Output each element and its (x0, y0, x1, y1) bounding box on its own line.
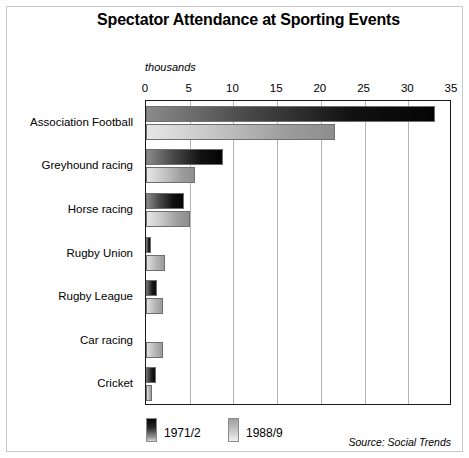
x-tick-label: 0 (142, 82, 148, 94)
bar-1971-2 (146, 149, 223, 165)
x-tick-label: 25 (357, 82, 370, 94)
bar-1988-9 (146, 124, 335, 140)
legend-label: 1988/9 (246, 427, 283, 439)
y-axis-category-label: Car racing (80, 334, 140, 346)
bar-1971-2 (146, 193, 184, 209)
y-axis-category-labels: Association FootballGreyhound racingHors… (0, 100, 140, 405)
bar-1971-2 (146, 367, 156, 383)
y-axis-category-label: Association Football (30, 116, 140, 128)
bar-1988-9 (146, 385, 152, 401)
x-tick-label: 10 (226, 82, 239, 94)
bar-1988-9 (146, 298, 163, 314)
x-gridline (190, 101, 191, 404)
bar-1988-9 (146, 342, 163, 358)
bar-1971-2 (146, 280, 157, 296)
legend-swatch-icon (146, 418, 157, 442)
chart-legend: Source: Social Trends 1971/21988/9 (0, 418, 469, 452)
x-gridline (277, 101, 278, 404)
x-gridline (365, 101, 366, 404)
bar-1971-2 (146, 106, 435, 122)
x-tick-label: 15 (270, 82, 283, 94)
x-gridline (408, 101, 409, 404)
y-axis-category-label: Horse racing (68, 203, 140, 215)
x-tick-label: 30 (401, 82, 414, 94)
x-gridline (233, 101, 234, 404)
y-axis-category-label: Cricket (97, 377, 140, 389)
y-axis-category-label: Rugby League (58, 290, 140, 302)
x-gridline (321, 101, 322, 404)
x-tick-label: 35 (445, 82, 458, 94)
x-axis-unit-label: thousands (145, 61, 196, 73)
x-tick-label: 5 (186, 82, 192, 94)
bar-1971-2 (146, 237, 151, 253)
bar-1988-9 (146, 211, 190, 227)
y-axis-category-label: Greyhound racing (42, 159, 140, 171)
y-axis-category-label: Rugby Union (67, 247, 140, 259)
plot-area (145, 100, 451, 405)
bar-1988-9 (146, 255, 165, 271)
source-note: Source: Social Trends (348, 436, 451, 448)
legend-swatch-icon (228, 418, 239, 442)
legend-label: 1971/2 (164, 427, 201, 439)
bar-1988-9 (146, 167, 195, 183)
chart-title: Spectator Attendance at Sporting Events (0, 11, 469, 29)
legend-entry: 1971/2 (146, 418, 201, 442)
legend-entry: 1988/9 (228, 418, 283, 442)
x-tick-label: 20 (313, 82, 326, 94)
chart-figure: Spectator Attendance at Sporting Events … (0, 0, 469, 458)
